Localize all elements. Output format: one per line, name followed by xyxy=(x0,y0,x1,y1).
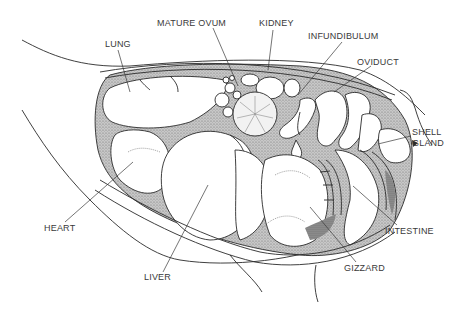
label-shell-gland-line2: GLAND xyxy=(412,138,444,148)
label-mature-ovum: MATURE OVUM xyxy=(157,18,226,28)
label-oviduct: OVIDUCT xyxy=(357,57,399,67)
label-gizzard: GIZZARD xyxy=(344,263,385,273)
label-shell-gland-line1: SHELL xyxy=(412,127,442,137)
label-lung: LUNG xyxy=(105,39,131,49)
label-kidney: KIDNEY xyxy=(259,18,294,28)
leader-heart xyxy=(65,162,133,222)
leader-kidney xyxy=(268,30,273,70)
label-intestine: INTESTINE xyxy=(385,226,434,236)
label-infundibulum: INFUNDIBULUM xyxy=(308,31,378,41)
label-heart: HEART xyxy=(44,223,75,233)
label-liver: LIVER xyxy=(144,272,171,282)
anatomy-diagram xyxy=(0,0,461,320)
